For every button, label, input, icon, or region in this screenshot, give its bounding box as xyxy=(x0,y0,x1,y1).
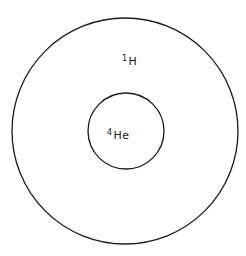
shell-diagram xyxy=(0,0,246,256)
helium-label: 4He xyxy=(107,130,130,141)
hydrogen-label: 1H xyxy=(122,56,137,67)
helium-mass-number: 4 xyxy=(107,128,113,137)
hydrogen-symbol: H xyxy=(129,55,138,68)
hydrogen-mass-number: 1 xyxy=(122,54,128,63)
helium-symbol: He xyxy=(114,129,130,142)
